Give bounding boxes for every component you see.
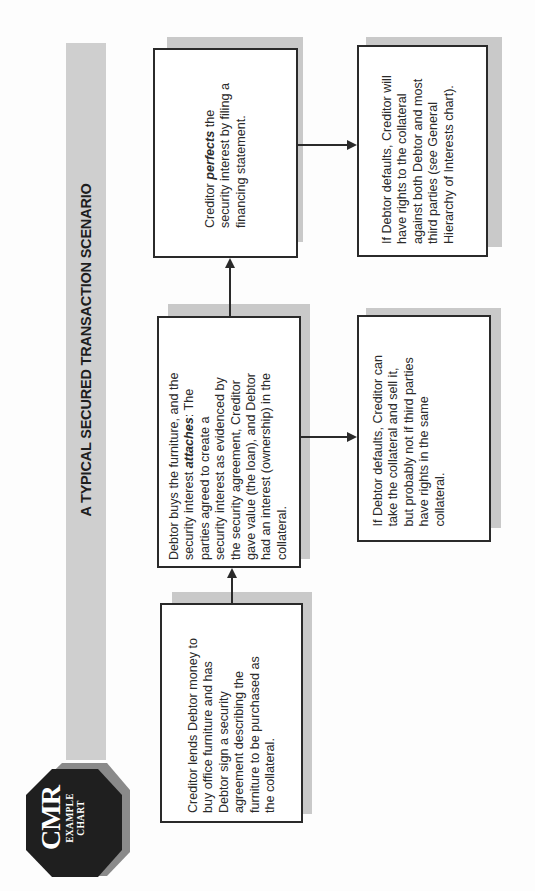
text-line: furniture to be purchased as (247, 613, 262, 813)
text-line: agreement describing the (232, 613, 247, 813)
connector-perfect-to-default (297, 144, 348, 146)
attach-box-text: Debtor buys the furniture, and the secur… (167, 324, 290, 560)
emphasis-attaches: attaches (183, 417, 197, 468)
text-line: had an interest (ownership) in the (260, 324, 275, 560)
text-line: Debtor sign a security (216, 613, 231, 813)
text-line: gave value (the loan), and Debtor (244, 324, 259, 560)
connector-attach-to-default (300, 436, 348, 438)
default-perfected-box: If Debtor defaults, Creditor will have r… (357, 45, 488, 257)
badge-line1: EXAMPLE (65, 786, 76, 850)
text-line: If Debtor defaults, Creditor will (380, 58, 395, 244)
text-line: If Debtor defaults, Creditor can (371, 331, 386, 526)
text-line: Creditor lends Debtor money to (185, 613, 200, 813)
emphasis-see: see (426, 150, 440, 170)
text-line: Hierarchy of Interests chart). (442, 58, 457, 244)
text-line: security interest as evidenced by (214, 324, 229, 560)
text-line: take the collateral and sell it, (387, 331, 402, 526)
badge-main: CMR (37, 786, 65, 850)
badge-line2: CHART (76, 786, 87, 850)
text-line: have rights to the collateral (395, 58, 410, 244)
text-line: collateral. (275, 324, 290, 560)
loan-box: Creditor lends Debtor money to buy offic… (160, 603, 303, 823)
text-line: the security agreement, Creditor (229, 324, 244, 560)
text-line: financing statement. (233, 78, 248, 228)
text-line: have rights in the same (418, 331, 433, 526)
text-line: against both Debtor and most (411, 58, 426, 244)
perfect-box-text: Creditor perfects the security interest … (202, 78, 248, 228)
page-title: A TYPICAL SECURED TRANSACTION SCENARIO (78, 183, 94, 516)
default-perfected-box-text: If Debtor defaults, Creditor will have r… (380, 58, 457, 244)
text-line: the collateral. (262, 613, 277, 813)
arrow-right-icon (347, 432, 357, 442)
text-line: parties agreed to create a (198, 324, 213, 560)
text-line: security interest by filing a (218, 78, 233, 228)
connector-attach-to-perfect (229, 267, 231, 317)
arrow-up-icon (225, 258, 235, 268)
text-line: but probably not if third parties (402, 331, 417, 526)
loan-box-text: Creditor lends Debtor money to buy offic… (185, 613, 277, 813)
emphasis-perfects: perfects (202, 131, 216, 180)
badge-label: CMR EXAMPLE CHART (37, 786, 87, 850)
attach-box: Debtor buys the furniture, and the secur… (157, 316, 301, 568)
default-attached-box: If Debtor defaults, Creditor can take th… (357, 315, 491, 542)
text-line: Creditor perfects the (202, 78, 217, 228)
perfect-box: Creditor perfects the security interest … (153, 48, 298, 258)
default-attached-box-text: If Debtor defaults, Creditor can take th… (371, 331, 448, 526)
connector-loan-to-attach (231, 577, 233, 604)
text-line: security interest attaches: The (183, 324, 198, 560)
text-line: Debtor buys the furniture, and the (167, 324, 182, 560)
arrow-right-icon (347, 140, 357, 150)
text-line: third parties (see General (426, 58, 441, 244)
arrow-up-icon (227, 568, 237, 578)
text-line: collateral. (433, 331, 448, 526)
text-line: buy office furniture and has (201, 613, 216, 813)
